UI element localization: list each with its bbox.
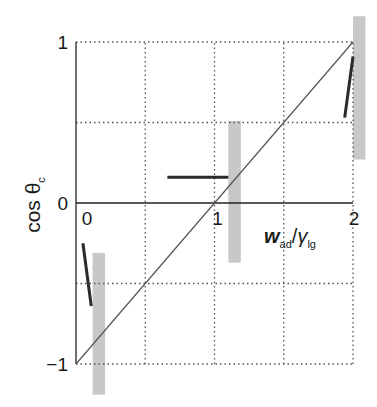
data-segment [345, 56, 353, 117]
uncertainty-bands [93, 16, 366, 394]
x-tick-label: 1 [212, 208, 223, 229]
x-axis-label: wad/γlg [264, 225, 316, 250]
y-tick-label: −1 [46, 354, 68, 375]
x-tick-label: 2 [349, 208, 360, 229]
data-segment [83, 243, 91, 306]
y-tick-label: 0 [57, 193, 68, 214]
y-axis-label: cos θc [21, 177, 47, 233]
uncertainty-band [93, 253, 105, 395]
chart: 10−1012 cos θc wad/γlg [0, 0, 377, 407]
y-tick-label: 1 [57, 32, 68, 53]
x-tick-label: 0 [82, 208, 93, 229]
uncertainty-band [228, 121, 240, 263]
uncertainty-band [353, 16, 365, 159]
